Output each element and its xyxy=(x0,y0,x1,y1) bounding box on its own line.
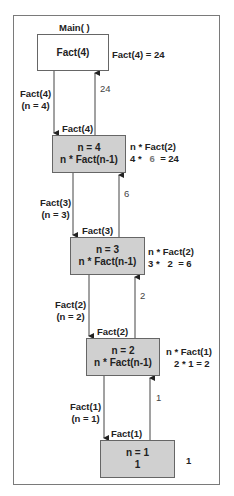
return-value-1: 1 xyxy=(156,392,161,404)
frame-box-4: n = 4n * Fact(n-1) xyxy=(52,135,126,173)
return-value-2: 2 xyxy=(140,290,145,302)
main-result: Fact(4) = 24 xyxy=(112,49,165,61)
call-label-2: Fact(2)(n = 2) xyxy=(55,299,86,322)
frame-box-2: n = 2n * Fact(n-1) xyxy=(86,338,160,376)
main-box: Fact(4) xyxy=(37,34,109,71)
main-box-label: Fact(4) xyxy=(57,47,90,59)
box-label-4: Fact(4) xyxy=(62,123,93,135)
frame-box-1: n = 11 xyxy=(100,440,175,478)
main-title: Main( ) xyxy=(59,22,90,34)
return-value-3: 6 xyxy=(124,188,129,200)
box-label-3: Fact(3) xyxy=(82,225,113,237)
call-label-3: Fact(3)(n = 3) xyxy=(40,197,71,220)
box-label-2: Fact(2) xyxy=(97,326,128,338)
expr-1: 1 xyxy=(186,455,191,467)
return-value-4: 24 xyxy=(100,83,111,95)
call-label-4: Fact(4)(n = 4) xyxy=(20,88,51,111)
expr-3: n * Fact(2) 3 * 2 = 6 xyxy=(148,246,194,269)
box-label-1: Fact(1) xyxy=(111,428,142,440)
expr-4: n * Fact(2) 4 * 6 = 24 xyxy=(130,141,179,164)
frame-box-3: n = 3n * Fact(n-1) xyxy=(70,237,145,275)
call-label-1: Fact(1)(n = 1) xyxy=(70,401,101,424)
expr-2: n * Fact(1) 2 * 1 = 2 xyxy=(166,346,212,369)
